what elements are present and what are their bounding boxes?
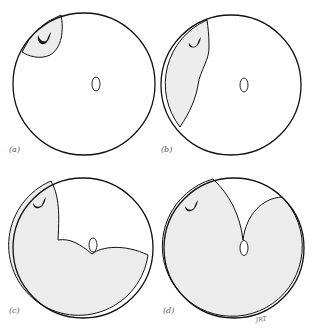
figure-canvas: (a) (b) (c) (d) JRT bbox=[0, 0, 312, 329]
panel-label-b: (b) bbox=[161, 145, 172, 154]
central-oval bbox=[89, 238, 97, 252]
shaded-region bbox=[9, 181, 148, 315]
shaded-region bbox=[22, 15, 62, 57]
central-oval bbox=[240, 78, 248, 92]
shaded-region bbox=[165, 20, 209, 127]
central-oval bbox=[92, 77, 100, 91]
central-oval bbox=[240, 241, 248, 256]
panel-a: (a) bbox=[9, 13, 155, 155]
panel-label-c: (c) bbox=[9, 306, 20, 315]
panel-label-d: (d) bbox=[163, 306, 174, 315]
panel-b: (b) bbox=[161, 15, 301, 155]
panel-d: (d) JRT bbox=[162, 178, 304, 324]
panel-c: (c) bbox=[9, 178, 153, 318]
artist-signature: JRT bbox=[253, 314, 268, 324]
panel-label-a: (a) bbox=[9, 145, 20, 154]
